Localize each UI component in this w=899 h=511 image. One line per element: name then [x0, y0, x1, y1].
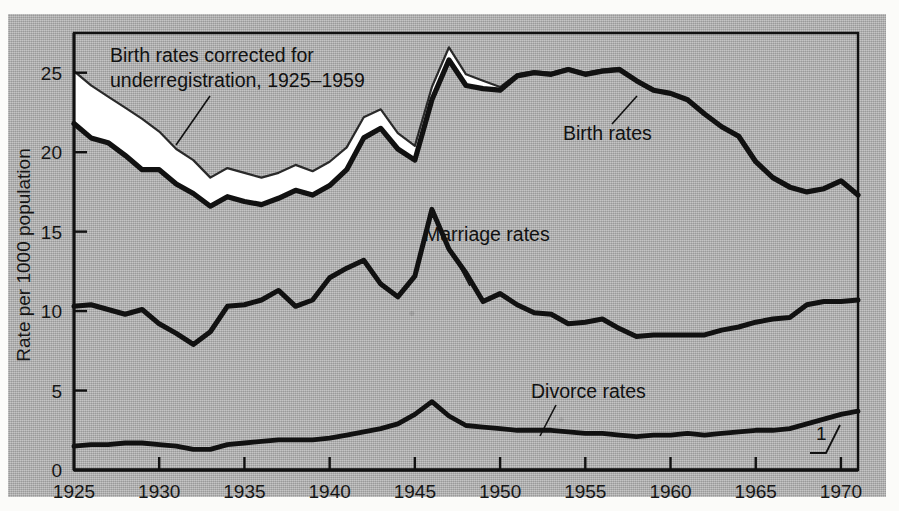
footnote-number: 1 — [816, 423, 827, 444]
y-tick-label-10: 10 — [41, 301, 62, 322]
figure-chart-vital-rates: 0510152025192519301935194019451950195519… — [0, 0, 899, 511]
x-tick-label-1940: 1940 — [309, 481, 351, 502]
annotation-birth-label: Birth rates — [563, 122, 652, 144]
y-axis-title: Rate per 1000 population — [13, 148, 34, 361]
annotation-birth-rates: Birth rates — [563, 96, 652, 144]
chart-svg: 0510152025192519301935194019451950195519… — [0, 0, 899, 511]
x-tick-label-1925: 1925 — [53, 481, 95, 502]
leader-line-corrected — [176, 96, 210, 145]
axes — [74, 33, 858, 470]
series-line-divorce-rates — [74, 402, 858, 450]
x-tick-label-1960: 1960 — [649, 481, 691, 502]
axis-tick-labels: 0510152025192519301935194019451950195519… — [41, 63, 862, 502]
leader-line-marriage — [451, 250, 470, 286]
y-tick-label-0: 0 — [51, 460, 62, 481]
y-tick-label-25: 25 — [41, 63, 62, 84]
x-tick-label-1945: 1945 — [394, 481, 436, 502]
series-lines — [74, 60, 858, 449]
chart-canvas: 0510152025192519301935194019451950195519… — [0, 0, 899, 511]
x-tick-label-1965: 1965 — [735, 481, 777, 502]
annotation-marriage-label: Marriage rates — [424, 223, 550, 245]
x-tick-label-1970: 1970 — [820, 481, 862, 502]
annotation-corrected-line1: Birth rates corrected for — [110, 44, 314, 66]
y-tick-label-15: 15 — [41, 222, 62, 243]
y-tick-label-5: 5 — [51, 381, 62, 402]
annotation-corrected-line2: underregistration, 1925–1959 — [110, 69, 365, 91]
y-tick-label-20: 20 — [41, 142, 62, 163]
footnote-marker-group: 1 — [810, 423, 840, 453]
plot-frame — [74, 33, 858, 470]
leader-line-birth — [612, 96, 637, 124]
annotation-divorce-rates: Divorce rates — [531, 380, 646, 436]
x-tick-label-1930: 1930 — [138, 481, 180, 502]
annotation-divorce-label: Divorce rates — [531, 380, 646, 402]
x-tick-label-1950: 1950 — [479, 481, 521, 502]
annotation-marriage-rates: Marriage rates — [424, 223, 550, 286]
x-tick-label-1935: 1935 — [223, 481, 265, 502]
x-tick-label-1955: 1955 — [564, 481, 606, 502]
